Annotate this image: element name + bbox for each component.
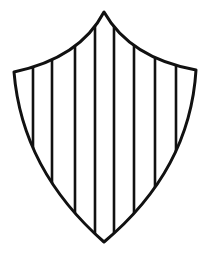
shield-outline <box>14 12 196 242</box>
shield-icon <box>0 0 210 256</box>
shield-figure <box>0 0 210 256</box>
stripes <box>33 0 176 256</box>
